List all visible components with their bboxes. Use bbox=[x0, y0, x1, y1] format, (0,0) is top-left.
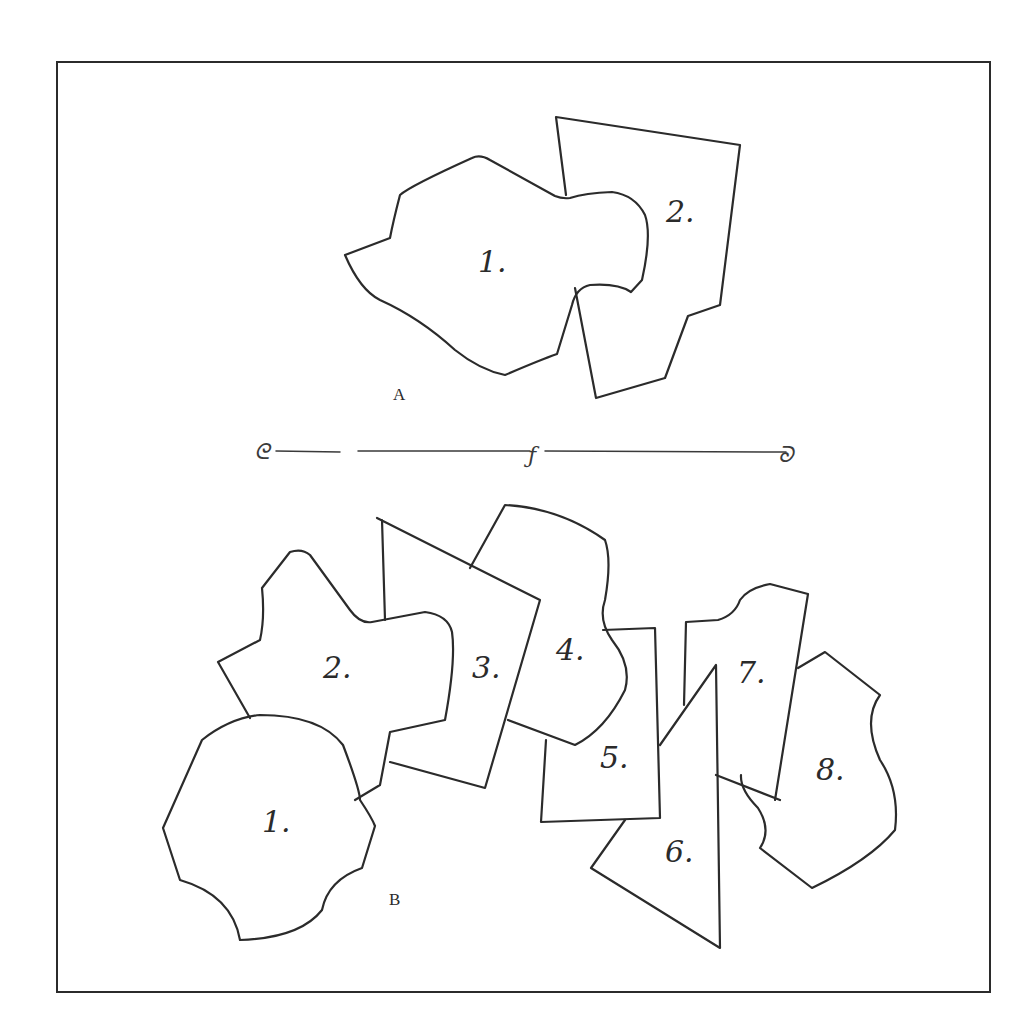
section-b-piece-7-shape bbox=[684, 584, 808, 800]
section-a: 1. 2. A bbox=[345, 117, 740, 404]
section-b-piece-1-label: 1. bbox=[262, 804, 291, 839]
section-b-piece-3-shape bbox=[377, 518, 540, 788]
divider-right-ornament: ᘐ bbox=[778, 442, 795, 467]
section-b-piece-7-label: 7. bbox=[737, 655, 766, 690]
section-b: 1. 2. 3. 4. 5. 6. 7. 8. B bbox=[163, 505, 896, 948]
section-b-piece-4-label: 4. bbox=[555, 632, 585, 667]
section-a-piece-2-shape bbox=[556, 117, 740, 398]
divider-mid-ornament: ƒ bbox=[523, 443, 540, 468]
section-b-piece-5-label: 5. bbox=[600, 740, 629, 775]
section-a-piece-1-label: 1. bbox=[478, 244, 507, 279]
section-b-piece-8-label: 8. bbox=[816, 752, 845, 787]
section-b-piece-6-shape bbox=[591, 665, 720, 948]
figure-plate: 1. 2. A ᘓ ƒ ᘐ 1. 2. 3. 4. 5. 6. 7. bbox=[0, 0, 1034, 1028]
section-b-piece-2-label: 2. bbox=[322, 650, 352, 685]
section-a-caption: A bbox=[393, 385, 406, 404]
section-b-piece-6-label: 6. bbox=[665, 834, 694, 869]
divider-left-ornament: ᘓ bbox=[254, 439, 272, 464]
section-divider: ᘓ ƒ ᘐ bbox=[254, 439, 795, 468]
section-b-piece-3-label: 3. bbox=[472, 650, 501, 685]
plate-border bbox=[57, 62, 990, 992]
section-b-piece-4-shape bbox=[470, 505, 627, 745]
section-b-caption: B bbox=[389, 890, 400, 909]
section-a-piece-2-label: 2. bbox=[665, 194, 695, 229]
